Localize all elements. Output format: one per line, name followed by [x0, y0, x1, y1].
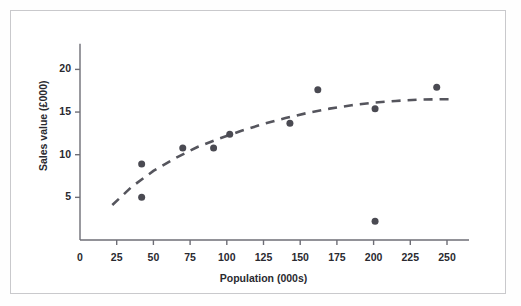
y-tick-label: 15 [59, 105, 71, 117]
chart-frame: 51015200255075100125150175200225250 Sale… [10, 10, 506, 294]
y-tick-label: 10 [59, 148, 71, 160]
data-point [286, 120, 293, 127]
data-point [179, 144, 186, 151]
y-tick-label: 20 [59, 62, 71, 74]
data-point [138, 194, 145, 201]
figure-canvas: 51015200255075100125150175200225250 Sale… [0, 0, 521, 306]
data-point [210, 144, 217, 151]
data-point [372, 105, 379, 112]
data-point [433, 84, 440, 91]
x-axis-title: Population (000s) [11, 272, 516, 284]
y-axis-title: Sales value (£000) [37, 81, 49, 171]
data-point [372, 218, 379, 225]
data-point [314, 86, 321, 93]
x-tick-label: 250 [11, 251, 521, 263]
data-point [138, 161, 145, 168]
trendline-group [112, 99, 451, 205]
y-tick-label: 5 [65, 190, 71, 202]
data-point [226, 131, 233, 138]
axes-group [75, 44, 469, 245]
